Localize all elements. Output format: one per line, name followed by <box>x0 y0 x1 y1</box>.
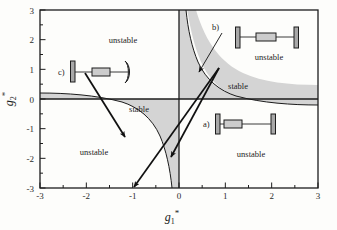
y-axis-title-sub: 2 <box>9 96 18 100</box>
region-label-stable-q1: stable <box>228 81 248 91</box>
x-tick-label: -3 <box>36 191 44 201</box>
inset-b-mirror-right <box>294 27 299 48</box>
stability-diagram-figure: -3 -2 -1 0 1 2 3 3 2 1 0 -1 -2 -3 unstab… <box>0 0 337 230</box>
inset-a-gain-medium <box>224 120 242 128</box>
inset-a-mirror-right <box>271 114 276 134</box>
inset-c-label: c) <box>58 67 65 77</box>
x-axis-title-sup: * <box>175 208 180 218</box>
inset-c-mirror-left-flat <box>71 61 76 82</box>
inset-b-gain-medium <box>256 33 276 41</box>
region-label-unstable-q1: unstable <box>255 52 284 62</box>
inset-a-label: a) <box>203 119 210 129</box>
region-label-stable-q3: stable <box>129 104 149 114</box>
svg-text:g2*: g2* <box>0 91 18 106</box>
plot-canvas: -3 -2 -1 0 1 2 3 3 2 1 0 -1 -2 -3 unstab… <box>0 0 337 230</box>
y-tick-label: 0 <box>30 95 35 105</box>
y-tick-label: -2 <box>27 154 35 164</box>
y-tick-label: 1 <box>30 65 35 75</box>
x-axis-title: g1* <box>165 208 180 226</box>
y-tick-label: -1 <box>27 124 35 134</box>
inset-b-label: b) <box>212 22 219 32</box>
y-tick-labels: 3 2 1 0 -1 -2 -3 <box>27 6 35 194</box>
x-tick-label: -2 <box>83 191 91 201</box>
x-tick-label: 0 <box>177 191 182 201</box>
region-label-unstable-q3: unstable <box>80 147 109 157</box>
x-tick-label: 3 <box>316 191 321 201</box>
y-tick-label: 2 <box>30 35 35 45</box>
region-label-unstable-q2: unstable <box>109 35 138 45</box>
x-tick-labels: -3 -2 -1 0 1 2 3 <box>36 191 321 201</box>
svg-text:g1*: g1* <box>165 208 180 226</box>
y-tick-label: 3 <box>30 6 35 16</box>
x-tick-label: -1 <box>129 191 137 201</box>
inset-b-mirror-left <box>236 27 241 48</box>
x-axis-title-sub: 1 <box>171 217 175 226</box>
y-tick-label: -3 <box>27 184 35 194</box>
inset-c-gain-medium <box>92 68 110 76</box>
x-tick-label: 1 <box>223 191 228 201</box>
inset-a-mirror-left <box>216 114 221 134</box>
x-tick-label: 2 <box>269 191 274 201</box>
y-axis-title-sup: * <box>0 91 10 96</box>
y-axis-title: g2* <box>0 91 18 106</box>
region-label-unstable-q4: unstable <box>237 149 266 159</box>
